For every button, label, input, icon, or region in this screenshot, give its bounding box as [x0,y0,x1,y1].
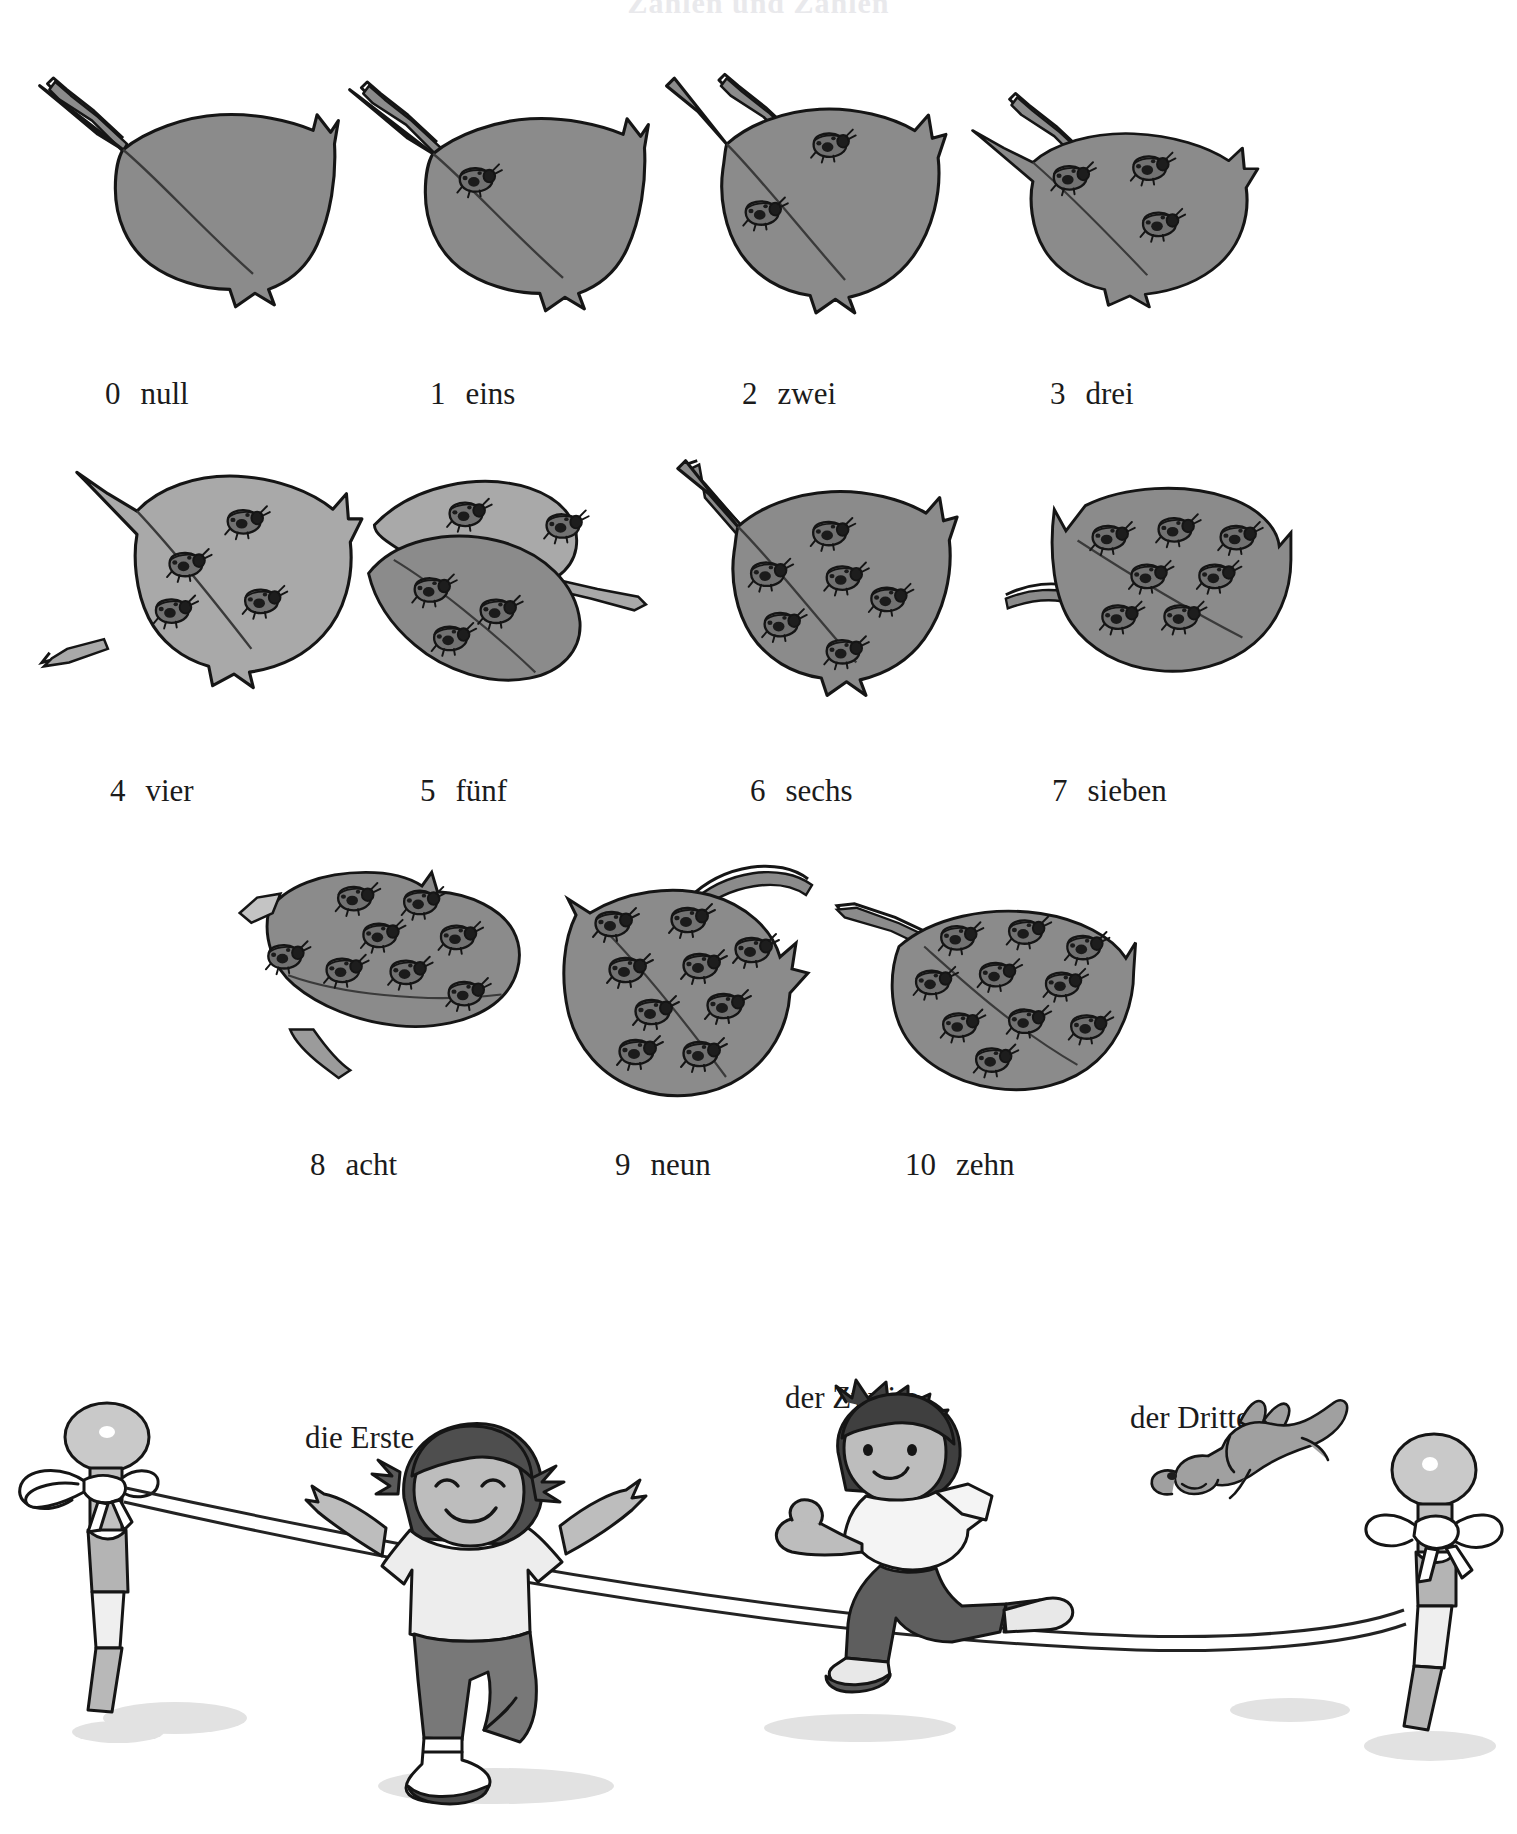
leaf-illustration-7 [1000,473,1320,703]
girl-runner [306,1424,646,1804]
numeral-2: 2 [742,376,758,411]
page-title: Zahlen und Zählen [0,0,1517,20]
leaf-illustration-6 [672,455,992,705]
caption-4: 4vier [110,773,194,809]
number-card-5[interactable] [355,463,675,713]
word-7: sieben [1088,773,1167,808]
numeral-5: 5 [420,773,436,808]
dog-runner [1152,1400,1347,1498]
number-card-1[interactable] [340,62,660,324]
leaf-illustration-10 [835,875,1155,1115]
leaf-illustration-1 [340,62,660,324]
number-card-10[interactable] [835,875,1155,1115]
word-9: neun [651,1147,711,1182]
ground-shadows [72,1698,1496,1804]
number-card-3[interactable] [965,78,1285,328]
word-1: eins [466,376,516,411]
caption-5: 5fünf [420,773,507,809]
word-0: null [141,376,189,411]
number-card-9[interactable] [540,855,870,1120]
numeral-4: 4 [110,773,126,808]
numeral-7: 7 [1052,773,1068,808]
post-with-ribbon-right [1366,1434,1502,1730]
worksheet-page: Zahlen und Zählen [0,0,1517,1834]
numeral-9: 9 [615,1147,631,1182]
number-card-6[interactable] [672,455,992,705]
number-card-2[interactable] [655,66,975,328]
numeral-6: 6 [750,773,766,808]
race-scene: die Erste der Zweite der Dritte [0,1380,1517,1834]
caption-6: 6sechs [750,773,853,809]
numeral-8: 8 [310,1147,326,1182]
word-3: drei [1086,376,1134,411]
post-with-ribbon-left [20,1403,158,1712]
leaf-illustration-5 [355,463,675,713]
word-8: acht [346,1147,398,1182]
word-2: zwei [778,376,837,411]
caption-8: 8acht [310,1147,397,1183]
leaf-illustration-0 [30,58,350,320]
number-card-4[interactable] [40,455,360,705]
race-illustration [0,1380,1517,1834]
number-row-3: 8acht [0,855,1517,1175]
leaf-illustration-9 [540,855,870,1120]
word-5: fünf [456,773,508,808]
numeral-10: 10 [905,1147,936,1182]
number-card-7[interactable] [1000,473,1320,703]
number-card-8[interactable] [230,855,550,1105]
caption-1: 1eins [430,376,515,412]
leaf-illustration-4 [40,455,360,705]
caption-9: 9neun [615,1147,711,1183]
caption-0: 0null [105,376,189,412]
word-10: zehn [956,1147,1015,1182]
word-4: vier [146,773,194,808]
leaf-illustration-8 [230,855,550,1105]
numeral-1: 1 [430,376,446,411]
leaf-illustration-2 [655,66,975,328]
caption-10: 10zehn [905,1147,1015,1183]
word-6: sechs [786,773,853,808]
numeral-3: 3 [1050,376,1066,411]
number-row-1: 0null 1eins [0,58,1517,388]
number-row-2: 4vier [0,455,1517,795]
caption-3: 3drei [1050,376,1134,412]
leaf-illustration-3 [965,78,1285,328]
numeral-0: 0 [105,376,121,411]
number-card-0[interactable] [30,58,350,320]
caption-2: 2zwei [742,376,836,412]
caption-7: 7sieben [1052,773,1167,809]
